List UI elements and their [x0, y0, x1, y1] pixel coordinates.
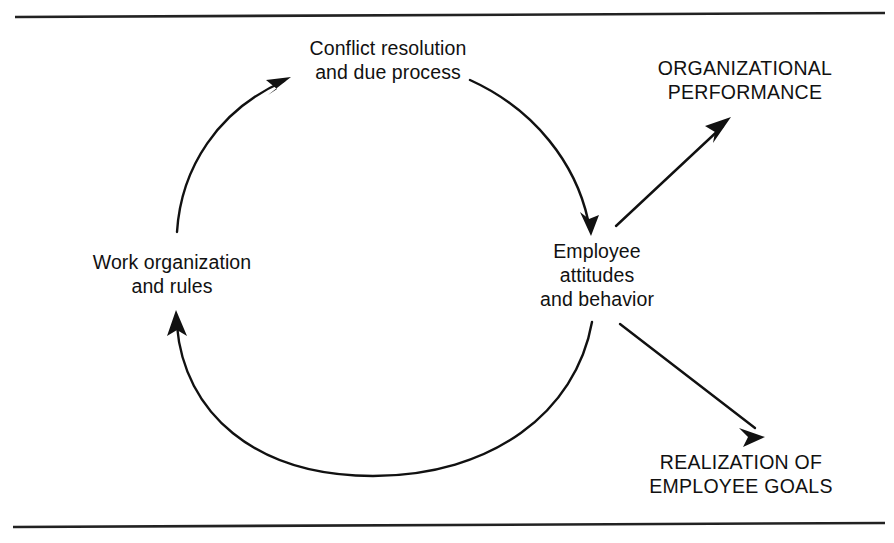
arrowhead-to-employee-attitudes — [580, 212, 599, 236]
node-conflict-resolution: Conflict resolution and due process — [268, 36, 508, 84]
node-employee-attitudes: Employee attitudes and behavior — [512, 239, 682, 312]
bottom-horizontal-rule — [13, 523, 885, 527]
line-employee-to-organizational-performance — [616, 126, 723, 226]
line-employee-to-realization-goals — [620, 324, 755, 428]
arc-employee-to-work — [177, 322, 592, 476]
node-realization-of-employee-goals: REALIZATION OF EMPLOYEE GOALS — [616, 450, 866, 498]
arc-work-to-conflict — [177, 81, 284, 232]
arrowhead-to-realization-goals — [739, 428, 765, 447]
figure-container: Conflict resolution and due process Work… — [0, 0, 894, 543]
node-organizational-performance: ORGANIZATIONAL PERFORMANCE — [620, 56, 870, 104]
top-horizontal-rule — [15, 13, 885, 17]
arc-conflict-to-employee — [470, 80, 588, 220]
node-work-organization: Work organization and rules — [48, 250, 296, 298]
